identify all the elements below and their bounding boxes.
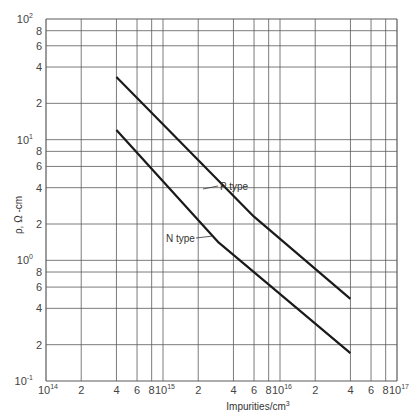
n-type-label: N type xyxy=(166,233,195,244)
y-tick-label: 101 xyxy=(17,133,33,146)
y-tick-label: 6 xyxy=(36,40,42,52)
p-type-label: P type xyxy=(220,181,249,192)
y-tick-label: 8 xyxy=(36,145,42,157)
x-tick-label: 4 xyxy=(113,384,119,396)
x-tick-label: 2 xyxy=(78,384,84,396)
y-tick-label: 2 xyxy=(36,218,42,230)
x-tick-label: 4 xyxy=(347,384,353,396)
y-tick-label: 2 xyxy=(36,339,42,351)
x-tick-label: 8 xyxy=(383,384,389,396)
x-tick-label: 1017 xyxy=(389,383,409,396)
y-tick-label: 100 xyxy=(17,253,33,266)
x-tick-label: 1016 xyxy=(272,383,292,396)
resistivity-chart: 1014246810152468101624681017102864210186… xyxy=(0,0,412,419)
y-tick-label: 4 xyxy=(36,302,42,314)
x-tick-label: 2 xyxy=(195,384,201,396)
grid xyxy=(46,19,397,381)
x-axis-label-main: Impurities/cm xyxy=(226,401,285,412)
y-tick-label: 4 xyxy=(36,182,42,194)
x-tick-label: 2 xyxy=(312,384,318,396)
y-tick-label: 10-1 xyxy=(15,374,34,387)
y-tick-label: 6 xyxy=(36,281,42,293)
x-tick-label: 8 xyxy=(266,384,272,396)
x-tick-label: 6 xyxy=(134,384,140,396)
y-tick-label: 4 xyxy=(36,61,42,73)
x-tick-label: 8 xyxy=(149,384,155,396)
y-tick-label: 102 xyxy=(17,12,33,25)
x-tick-label: 6 xyxy=(368,384,374,396)
x-tick-label: 1014 xyxy=(38,383,58,396)
y-axis-label: ρ, Ω -cm xyxy=(13,196,24,234)
y-tick-label: 6 xyxy=(36,160,42,172)
y-tick-label: 8 xyxy=(36,25,42,37)
x-tick-label: 1015 xyxy=(155,383,175,396)
y-tick-label: 2 xyxy=(36,97,42,109)
x-tick-label: 4 xyxy=(230,384,236,396)
y-tick-label: 8 xyxy=(36,266,42,278)
x-axis-label: Impurities/cm3 xyxy=(226,400,289,412)
x-axis-label-sup: 3 xyxy=(286,400,290,407)
tick-labels: 1014246810152468101624681017102864210186… xyxy=(15,12,410,396)
x-tick-label: 6 xyxy=(251,384,257,396)
